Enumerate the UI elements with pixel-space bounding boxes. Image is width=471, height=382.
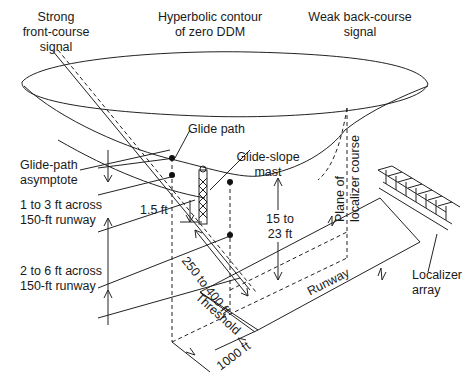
label-line: Localizer xyxy=(412,268,462,283)
label-plane-of-localizer: Plane of localizer course xyxy=(333,135,363,222)
label-line: Weak back-course xyxy=(305,10,415,25)
glide-path-asymptote-curve xyxy=(58,140,205,198)
label-line: Glide-path xyxy=(20,158,78,173)
label-line: 23 ft xyxy=(260,227,300,242)
label-glide-path: Glide path xyxy=(188,122,245,137)
label-line: 15 to xyxy=(260,212,300,227)
label-line: 150-ft runway xyxy=(20,279,102,294)
label-line: array xyxy=(412,283,462,298)
label-line: signal xyxy=(305,25,415,40)
glide-path-dot-2 xyxy=(169,172,175,178)
label-1-5-ft: 1.5 ft xyxy=(140,203,168,218)
label-line: of zero DDM xyxy=(155,25,265,40)
label-line: localizer course xyxy=(348,135,363,222)
zero-ddm-contour-top xyxy=(22,52,428,117)
label-line: Plane of xyxy=(333,135,348,222)
localizer-array-drawing xyxy=(378,166,460,230)
front-course-dashed xyxy=(58,50,256,292)
glide-path-dot-1 xyxy=(169,155,175,161)
label-strong-front-course: Strong front-course signal xyxy=(16,10,96,55)
label-2-to-6-ft: 2 to 6 ft across 150-ft runway xyxy=(20,264,102,294)
label-weak-back-course: Weak back-course signal xyxy=(305,10,415,40)
label-line: front-course xyxy=(16,25,96,40)
label-line: 2 to 6 ft across xyxy=(20,264,102,279)
label-line: Glide-slope xyxy=(228,150,308,165)
label-hyperbolic-contour: Hyperbolic contour of zero DDM xyxy=(155,10,265,40)
label-glide-path-asymptote: Glide-path asymptote xyxy=(20,158,78,188)
label-1-to-3-ft: 1 to 3 ft across 150-ft runway xyxy=(20,198,102,228)
label-line: mast xyxy=(228,165,308,180)
label-line: Hyperbolic contour xyxy=(155,10,265,25)
label-line: Strong xyxy=(16,10,96,25)
label-line: 150-ft runway xyxy=(20,213,102,228)
label-line: signal xyxy=(16,40,96,55)
label-line: asymptote xyxy=(20,173,78,188)
label-localizer-array: Localizer array xyxy=(412,268,462,298)
label-glide-slope-mast: Glide-slope mast xyxy=(228,150,308,180)
label-15-to-23-ft: 15 to 23 ft xyxy=(260,212,300,242)
label-line: 1 to 3 ft across xyxy=(20,198,102,213)
glide-path-dot-4 xyxy=(227,232,233,238)
